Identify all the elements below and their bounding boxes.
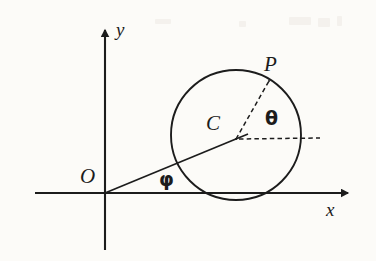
- segment-OC: [105, 134, 248, 193]
- angle-label-phi: φ: [159, 170, 174, 189]
- point-label-p: P: [264, 54, 277, 75]
- point-label-center: C: [206, 113, 220, 134]
- ray-C-horizontal-dashed: [239, 138, 320, 139]
- circle-shape: [171, 70, 301, 200]
- point-P-marker: [268, 80, 270, 82]
- x-axis-label: x: [326, 200, 334, 219]
- point-C-marker: [235, 138, 237, 140]
- point-label-origin: O: [80, 166, 95, 187]
- y-axis-label: y: [116, 20, 124, 39]
- angle-label-theta: θ: [265, 109, 278, 128]
- diagram-canvas: [0, 0, 376, 261]
- geometry-figure: y x O C P φ θ: [0, 0, 376, 261]
